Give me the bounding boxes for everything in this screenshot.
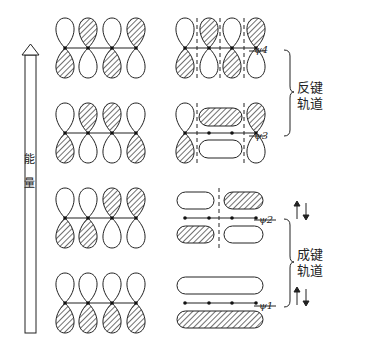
antibonding-label-2: 轨道 [297, 96, 323, 111]
p-orbital-row-ψ4 [56, 18, 145, 78]
butadiene-mo-diagram [0, 0, 366, 356]
antibonding-bracket [284, 50, 294, 136]
p-orbital-row-ψ3 [56, 103, 145, 163]
p-orbital-column [56, 18, 145, 333]
energy-label-2: 量 [24, 176, 35, 191]
mo-column [176, 18, 265, 328]
bonding-bracket [284, 219, 294, 307]
mo-row-ψ4 [176, 18, 265, 80]
p-orbital-row-ψ1 [56, 273, 145, 333]
bonding-label-1: 成键 [297, 247, 323, 262]
psi4-label: ψ4 [254, 44, 268, 55]
p-orbital-row-ψ2 [56, 188, 145, 248]
energy-label-1: 能 [24, 152, 35, 167]
psi1-label: ψ1 [259, 300, 273, 311]
mo-row-ψ1 [177, 277, 263, 328]
psi2-label: ψ2 [259, 214, 273, 225]
psi3-label: ψ3 [254, 130, 268, 141]
mo-row-ψ2 [177, 188, 263, 250]
bonding-label-2: 轨道 [297, 263, 323, 278]
antibonding-label-1: 反键 [297, 80, 323, 95]
mo-row-ψ3 [176, 103, 265, 165]
